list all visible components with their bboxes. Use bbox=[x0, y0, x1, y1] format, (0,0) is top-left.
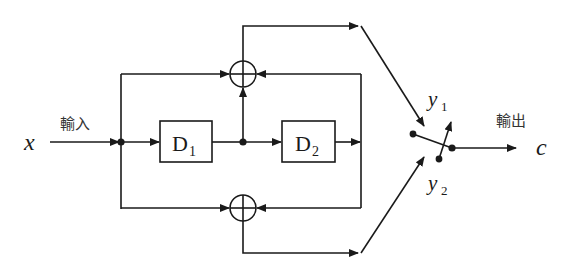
y2-label-letter: y bbox=[426, 171, 438, 195]
output-label: 輸出 bbox=[496, 112, 526, 130]
y2-arrow bbox=[361, 157, 424, 253]
output-switch bbox=[410, 122, 456, 162]
switch-toggle-arrow bbox=[439, 122, 451, 159]
y2-label-subscript: 2 bbox=[441, 183, 448, 198]
y1-arrow bbox=[361, 26, 424, 126]
input-symbol-x: x bbox=[23, 129, 35, 155]
d1-subscript: 1 bbox=[189, 144, 196, 159]
d1-letter: D bbox=[172, 131, 188, 156]
bottom-summer bbox=[230, 195, 256, 221]
top-output-arrow bbox=[243, 26, 358, 61]
d2-letter: D bbox=[295, 131, 311, 156]
d1-block: D 1 bbox=[160, 121, 212, 162]
top-summer bbox=[230, 61, 256, 87]
y1-label-subscript: 1 bbox=[441, 99, 448, 114]
y1-label-letter: y bbox=[426, 87, 438, 111]
d2-block: D 2 bbox=[282, 121, 335, 162]
d2-subscript: 2 bbox=[312, 144, 319, 159]
output-symbol-c: c bbox=[536, 134, 547, 160]
bottom-output-arrow bbox=[243, 221, 358, 253]
block-diagram: x 輸入 D 1 D 2 bbox=[0, 0, 570, 272]
input-label: 輸入 bbox=[60, 115, 90, 133]
